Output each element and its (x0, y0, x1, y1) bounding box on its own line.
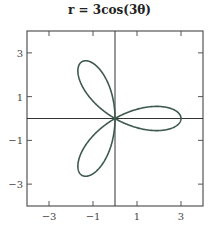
y-tick-label: 3 (17, 48, 23, 59)
x-tick-label: 1 (134, 211, 140, 222)
x-tick-label: 3 (178, 211, 184, 222)
y-tick-label: −1 (8, 135, 23, 146)
y-tick-label: 1 (17, 92, 23, 103)
plot-area: −3−11331−1−3 (0, 0, 219, 233)
x-tick-label: −3 (42, 211, 57, 222)
y-tick-label: −3 (8, 179, 23, 190)
x-tick-label: −1 (86, 211, 101, 222)
